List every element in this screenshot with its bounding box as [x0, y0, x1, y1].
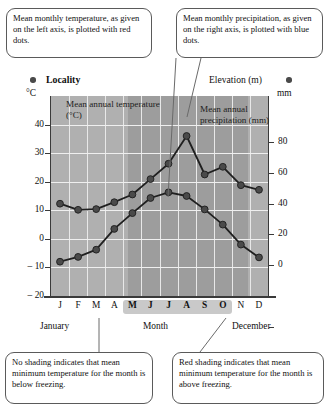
month-label: J	[143, 300, 157, 310]
gridline-vertical	[123, 96, 124, 296]
left-axis-tick	[45, 210, 50, 211]
right-axis-tick-label: 80	[278, 136, 287, 146]
right-axis-tick-label: 40	[278, 198, 287, 208]
gridline-vertical	[87, 96, 88, 296]
month-label: F	[71, 300, 85, 310]
locality-title: Locality	[46, 74, 80, 85]
callout-temperature-text: Mean monthly temperature, as given on th…	[13, 13, 145, 47]
gridline-vertical	[105, 96, 106, 296]
red-dot-marker-icon	[30, 77, 36, 83]
left-axis-tick-label: – 10	[8, 261, 44, 271]
right-axis-unit: mm	[277, 88, 292, 98]
right-axis-tick	[269, 296, 274, 297]
right-axis-tick	[269, 173, 274, 174]
right-axis-tick	[269, 265, 274, 266]
gridline-horizontal	[51, 153, 268, 154]
left-axis-tick	[45, 125, 50, 126]
climate-graph-figure: Mean monthly temperature, as given on th…	[0, 0, 329, 412]
callout-red-shading-text: Red shading indicates that mean minimum …	[179, 357, 317, 391]
month-label: O	[216, 300, 230, 310]
month-label: A	[180, 300, 194, 310]
precipitation-series-label: Mean annual precipitation (mm)	[200, 104, 270, 127]
gridline-vertical	[196, 96, 197, 296]
left-axis-tick	[45, 182, 50, 183]
elevation-label: Elevation (m)	[209, 74, 262, 85]
left-axis-tick-label: 10	[8, 204, 44, 214]
temperature-series-label: Mean annual temperature (°C)	[66, 99, 162, 122]
left-axis-unit: °C	[26, 88, 36, 98]
gridline-horizontal	[51, 210, 268, 211]
gridline-vertical	[178, 96, 179, 296]
month-label: M	[125, 300, 139, 310]
callout-precipitation: Mean monthly precipitation, as given on …	[176, 8, 323, 58]
month-label: M	[89, 300, 103, 310]
left-axis-line	[50, 96, 51, 296]
bottom-axis-line	[44, 296, 276, 298]
callout-no-shading: No shading indicates that mean minimum t…	[5, 352, 153, 404]
left-axis-tick	[45, 296, 50, 297]
gridline-vertical	[160, 96, 161, 296]
left-axis-tick	[45, 267, 50, 268]
right-axis-tick-label: 0	[278, 259, 283, 269]
gridline-vertical	[69, 96, 70, 296]
left-axis-tick-label: 0	[8, 233, 44, 243]
left-axis-tick-label: 20	[8, 176, 44, 186]
left-axis-tick	[45, 153, 50, 154]
gridline-horizontal	[51, 182, 268, 183]
month-label: D	[252, 300, 266, 310]
month-label: J	[162, 300, 176, 310]
left-axis-tick-label: 30	[8, 147, 44, 157]
callout-temperature: Mean monthly temperature, as given on th…	[6, 8, 152, 58]
gridline-vertical	[141, 96, 142, 296]
month-label: S	[198, 300, 212, 310]
callout-precipitation-text: Mean monthly precipitation, as given on …	[183, 13, 316, 47]
month-label: A	[107, 300, 121, 310]
right-axis-tick	[269, 234, 274, 235]
callout-red-shading: Red shading indicates that mean minimum …	[172, 352, 324, 404]
month-label: J	[53, 300, 67, 310]
right-axis-tick-label: 20	[278, 228, 287, 238]
leader-red-shading	[200, 318, 226, 352]
x-caption-last: December	[232, 321, 271, 331]
left-axis-tick-label: 40	[8, 119, 44, 129]
right-axis-tick	[269, 204, 274, 205]
left-axis-tick	[45, 239, 50, 240]
left-axis-tick-label: – 20	[8, 290, 44, 300]
right-axis-tick-label: 60	[278, 167, 287, 177]
month-label: N	[234, 300, 248, 310]
x-caption-first: January	[40, 321, 69, 331]
x-axis-title: Month	[143, 321, 168, 331]
gridline-horizontal	[51, 239, 268, 240]
callout-no-shading-text: No shading indicates that mean minimum t…	[12, 357, 146, 391]
blue-dot-marker-icon	[286, 77, 292, 83]
gridline-horizontal	[51, 267, 268, 268]
right-axis-tick	[269, 142, 274, 143]
